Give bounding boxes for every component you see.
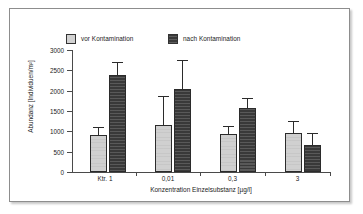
bar-nach-ktr-1 (109, 75, 126, 172)
error-bar-cap (112, 62, 123, 63)
error-bar-cap (242, 98, 253, 99)
error-bar-cap (288, 121, 299, 122)
error-bar-cap (307, 133, 318, 134)
bar-vor-0-3 (220, 134, 237, 172)
bar-chart: vor Kontamination nach Kontamination 300… (10, 9, 351, 203)
legend-swatch-icon-light (66, 34, 76, 44)
figure-frame: vor Kontamination nach Kontamination 300… (9, 8, 350, 202)
y-tick-label: 2000 (40, 88, 64, 95)
bar-vor-3 (285, 133, 302, 172)
x-tick-label-0-01: 0,01 (137, 175, 199, 182)
y-tick (67, 152, 72, 153)
error-bar-cap (158, 96, 169, 97)
bar-vor-ktr-1 (90, 135, 107, 172)
y-tick-label: 1500 (40, 108, 64, 115)
y-tick (67, 50, 72, 51)
y-tick-label: 2500 (40, 67, 64, 74)
x-tick-label-0-3: 0,3 (201, 175, 264, 182)
chart-legend: vor Kontamination nach Kontamination (66, 32, 296, 45)
bar-nach-3 (304, 145, 321, 172)
y-tick-label: 0 (40, 169, 64, 176)
error-bar-stem (163, 96, 164, 125)
error-bar-stem (312, 133, 313, 145)
y-axis-line (72, 50, 73, 172)
bar-nach-0-01 (174, 89, 191, 172)
error-bar-stem (228, 126, 229, 134)
legend-label: vor Kontamination (81, 35, 133, 42)
y-tick-label: 1000 (40, 128, 64, 135)
bar-nach-0-3 (239, 108, 256, 172)
error-bar-stem (247, 98, 248, 108)
x-group-separator (330, 172, 331, 176)
legend-swatch-icon-dark (168, 34, 178, 44)
error-bar-stem (117, 62, 118, 75)
y-tick-label: 500 (40, 149, 64, 156)
y-axis-title: Abundanz [Individuen/m²] (27, 53, 34, 141)
y-tick (67, 131, 72, 132)
legend-item-vor-kontamination: vor Kontamination (66, 32, 133, 45)
y-tick-label: 3000 (40, 47, 64, 54)
error-bar-stem (293, 121, 294, 133)
error-bar-cap (223, 126, 234, 127)
y-tick (67, 70, 72, 71)
x-axis-title: Konzentration Einzelsubstanz [µg/l] (72, 186, 330, 193)
y-tick (67, 91, 72, 92)
bar-vor-0-01 (155, 125, 172, 172)
legend-label: nach Kontamination (183, 35, 240, 42)
error-bar-stem (182, 60, 183, 89)
x-axis-line (72, 172, 330, 173)
y-tick (67, 111, 72, 112)
x-tick-label-ktr-1: Ktr. 1 (74, 175, 136, 182)
error-bar-cap (93, 127, 104, 128)
legend-item-nach-kontamination: nach Kontamination (168, 32, 240, 45)
error-bar-cap (177, 60, 188, 61)
error-bar-stem (98, 127, 99, 135)
x-tick-label-3: 3 (266, 175, 329, 182)
y-tick (67, 172, 72, 173)
